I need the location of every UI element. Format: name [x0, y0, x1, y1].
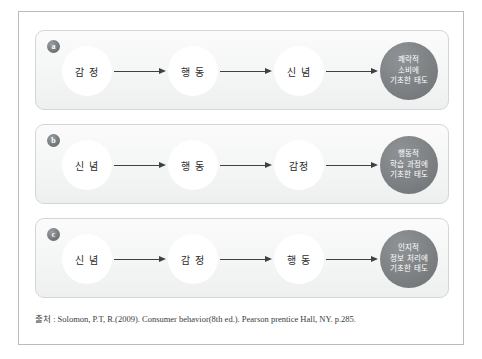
stage-node: 감 정 — [62, 46, 112, 96]
figure-frame: a 감 정 행 동 신 념 — [18, 11, 464, 345]
outcome-line: 소비에 — [398, 66, 419, 75]
outcome-line: 기초한 태도 — [390, 170, 427, 179]
arrow-head — [371, 162, 378, 168]
arrow-shaft — [220, 71, 265, 72]
arrow-shaft — [326, 259, 371, 260]
flow-arrow-icon — [326, 67, 378, 76]
stage-node: 감 정 — [168, 234, 218, 284]
arrow-shaft — [114, 259, 159, 260]
outcome-node-label: 행동적 학습 과정에 기초한 태도 — [388, 149, 429, 182]
arrow-shaft — [114, 71, 159, 72]
flow-arrow-icon — [326, 161, 378, 170]
stage-node: 행 동 — [168, 140, 218, 190]
stage-node: 행 동 — [168, 46, 218, 96]
flow-arrow-icon — [220, 255, 272, 264]
stage-node: 감정 — [274, 140, 324, 190]
flow-arrow-icon — [220, 67, 272, 76]
arrow-head — [159, 68, 166, 74]
stage-node: 신 념 — [62, 234, 112, 284]
stage-node: 행 동 — [274, 234, 324, 284]
arrow-head — [265, 256, 272, 262]
outcome-line: 인지적 — [398, 243, 419, 252]
stage-node: 신 념 — [62, 140, 112, 190]
arrow-head — [159, 162, 166, 168]
arrow-shaft — [326, 165, 371, 166]
arrow-head — [371, 68, 378, 74]
flow-c: 신 념 감 정 행 동 — [62, 219, 438, 299]
outcome-line: 행동적 — [398, 149, 419, 158]
arrow-shaft — [220, 165, 265, 166]
stage-node: 신 념 — [274, 46, 324, 96]
arrow-head — [265, 162, 272, 168]
outcome-node: 쾌락적 소비에 기초한 태도 — [380, 42, 438, 100]
stage-node-label: 신 념 — [75, 158, 99, 173]
arrow-shaft — [114, 165, 159, 166]
arrow-head — [371, 256, 378, 262]
stage-node-label: 행 동 — [287, 252, 311, 267]
outcome-node: 인지적 정보 처리에 기초한 태도 — [380, 230, 438, 288]
outcome-node: 행동적 학습 과정에 기초한 태도 — [380, 136, 438, 194]
flow-arrow-icon — [114, 255, 166, 264]
model-rows-container: a 감 정 행 동 신 념 — [35, 30, 449, 300]
model-row-b: b 신 념 행 동 감정 — [35, 124, 449, 204]
arrow-head — [265, 68, 272, 74]
outcome-line: 쾌락적 — [398, 55, 419, 64]
stage-node-label: 행 동 — [181, 64, 205, 79]
outcome-node-label: 인지적 정보 처리에 기초한 태도 — [388, 243, 429, 276]
model-row-a: a 감 정 행 동 신 념 — [35, 30, 449, 110]
arrow-head — [159, 256, 166, 262]
outcome-line: 학습 과정에 — [390, 160, 427, 169]
flow-b: 신 념 행 동 감정 — [62, 125, 438, 205]
row-badge-c: c — [47, 228, 60, 241]
flow-a: 감 정 행 동 신 념 — [62, 31, 438, 111]
source-caption: 출처 : Solomon, P.T, R.(2009). Consumer be… — [35, 312, 447, 324]
stage-node-label: 신 념 — [75, 252, 99, 267]
arrow-shaft — [326, 71, 371, 72]
stage-node-label: 신 념 — [287, 64, 311, 79]
outcome-line: 기초한 태도 — [390, 264, 427, 273]
stage-node-label: 행 동 — [181, 158, 205, 173]
flow-arrow-icon — [114, 67, 166, 76]
flow-arrow-icon — [114, 161, 166, 170]
outcome-line: 정보 처리에 — [390, 254, 427, 263]
stage-node-label: 감 정 — [75, 64, 99, 79]
arrow-shaft — [220, 259, 265, 260]
stage-node-label: 감 정 — [181, 252, 205, 267]
outcome-line: 기초한 태도 — [390, 76, 427, 85]
flow-arrow-icon — [326, 255, 378, 264]
outcome-node-label: 쾌락적 소비에 기초한 태도 — [388, 55, 429, 88]
row-badge-a: a — [47, 40, 60, 53]
flow-arrow-icon — [220, 161, 272, 170]
model-row-c: c 신 념 감 정 행 동 — [35, 218, 449, 298]
stage-node-label: 감정 — [289, 158, 309, 173]
row-badge-b: b — [47, 134, 60, 147]
